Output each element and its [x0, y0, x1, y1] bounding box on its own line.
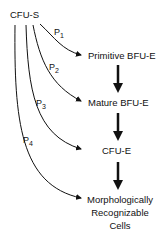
path-label-p4: P4 [23, 135, 33, 147]
stage-cfu-e: CFU-E [102, 145, 131, 156]
stage-mature-bfu-e: Mature BFU-E [88, 97, 149, 108]
path-label-p3: P3 [36, 98, 46, 110]
path-p3-arrow [26, 25, 81, 149]
stage-morphologically-recognizable-cells: Morphologically Recognizable Cells [82, 193, 158, 232]
path-label-p2: P2 [49, 62, 59, 74]
path-label-p1: P1 [54, 27, 64, 39]
source-node-cfu-s: CFU-S [10, 9, 39, 20]
stage-primitive-bfu-e: Primitive BFU-E [88, 50, 156, 61]
